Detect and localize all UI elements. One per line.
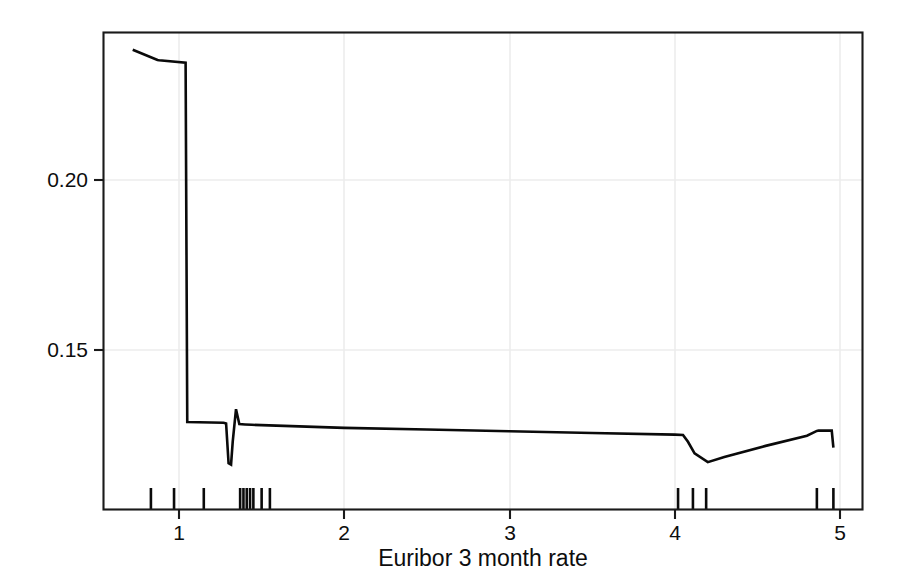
xtick-label-1: 1	[159, 521, 199, 545]
ytick-label-0.15: 0.15	[18, 338, 88, 362]
plot-canvas	[0, 0, 902, 584]
partial-dependence-plot: 0.20 0.15 1 2 3 4 5 Partial dependence E…	[0, 0, 902, 584]
xtick-label-5: 5	[820, 521, 860, 545]
x-axis-title: Euribor 3 month rate	[103, 545, 863, 572]
plot-area-background	[103, 32, 863, 510]
ytick-label-0.20: 0.20	[18, 168, 88, 192]
xtick-label-4: 4	[655, 521, 695, 545]
xtick-label-2: 2	[324, 521, 364, 545]
xtick-label-3: 3	[490, 521, 530, 545]
